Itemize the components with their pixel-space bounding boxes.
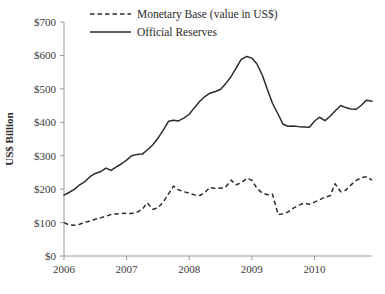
y-axis-title: US$ Billion — [3, 112, 15, 166]
chart-canvas: $0$100$200$300$400$500$600$7002006200720… — [0, 0, 385, 294]
y-tick-label: $600 — [34, 49, 57, 61]
y-tick-label: $300 — [34, 150, 57, 162]
x-tick-label: 2009 — [241, 263, 264, 275]
y-tick-label: $500 — [34, 83, 57, 95]
series-line-monetary-base — [64, 177, 372, 225]
y-tick-label: $400 — [34, 116, 57, 128]
x-tick-label: 2007 — [116, 263, 139, 275]
legend-label-monetary-base: Monetary Base (value in US$) — [137, 8, 278, 21]
x-tick-label: 2008 — [178, 263, 201, 275]
y-tick-label: $100 — [34, 217, 57, 229]
x-tick-label: 2010 — [303, 263, 326, 275]
series-line-official-reserves — [64, 56, 372, 195]
legend-label-official-reserves: Official Reserves — [137, 26, 217, 38]
x-tick-label: 2006 — [53, 263, 76, 275]
line-chart: $0$100$200$300$400$500$600$7002006200720… — [0, 0, 385, 294]
y-tick-label: $0 — [45, 250, 57, 262]
y-tick-label: $200 — [34, 183, 57, 195]
y-tick-label: $700 — [34, 16, 57, 28]
